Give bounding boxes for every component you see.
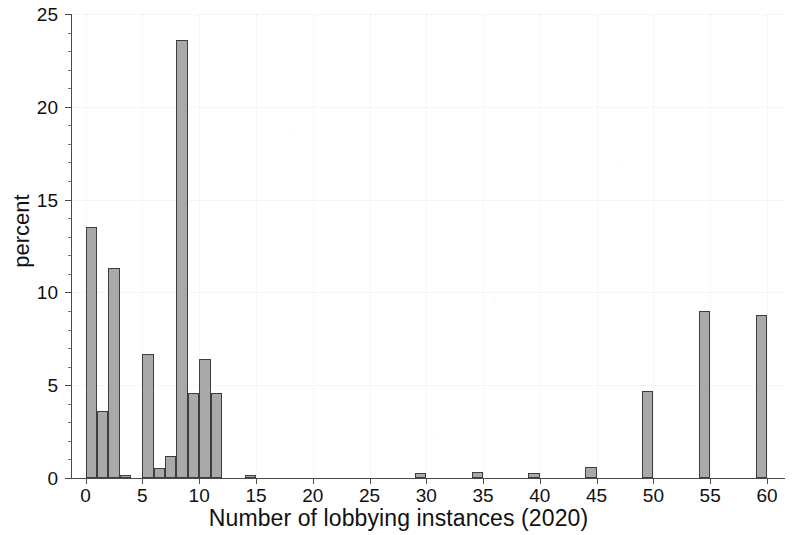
x-axis-tick-label: 25 xyxy=(340,486,400,505)
histogram-bar xyxy=(188,393,199,478)
y-axis-tick xyxy=(65,107,71,108)
y-axis-minor-tick xyxy=(68,274,71,275)
x-axis-tick xyxy=(483,478,484,484)
histogram-bar xyxy=(86,227,97,478)
histogram-bar xyxy=(699,311,710,478)
histogram-figure: 0510152025051015202530354045505560 Numbe… xyxy=(0,0,797,535)
x-axis-tick-label: 5 xyxy=(112,486,172,505)
histogram-bar xyxy=(142,354,153,478)
y-axis-minor-tick xyxy=(68,70,71,71)
y-axis-minor-tick xyxy=(68,88,71,89)
y-axis-minor-tick xyxy=(68,181,71,182)
y-axis-minor-tick xyxy=(68,144,71,145)
y-axis-minor-tick xyxy=(68,441,71,442)
histogram-bar xyxy=(199,359,210,478)
x-axis-tick-label: 40 xyxy=(510,486,570,505)
histogram-bar xyxy=(211,393,222,478)
x-axis-tick-label: 55 xyxy=(680,486,740,505)
x-axis-tick-label: 30 xyxy=(396,486,456,505)
y-axis-minor-tick xyxy=(68,255,71,256)
x-axis-tick-label: 0 xyxy=(56,486,116,505)
y-axis-minor-tick xyxy=(68,311,71,312)
x-axis-tick xyxy=(540,478,541,484)
histogram-bar xyxy=(756,315,767,478)
y-axis-line xyxy=(71,14,72,478)
x-axis-tick xyxy=(710,478,711,484)
x-axis-tick xyxy=(597,478,598,484)
y-axis-minor-tick xyxy=(68,459,71,460)
histogram-bar xyxy=(642,391,653,478)
x-axis-tick-label: 50 xyxy=(623,486,683,505)
y-axis-tick xyxy=(65,14,71,15)
y-axis-minor-tick xyxy=(68,162,71,163)
y-axis-minor-tick xyxy=(68,367,71,368)
x-axis-tick-label: 35 xyxy=(453,486,513,505)
x-axis-tick xyxy=(199,478,200,484)
histogram-bar xyxy=(176,40,187,478)
histogram-bar xyxy=(585,467,596,478)
y-axis-tick-label: 0 xyxy=(0,469,58,488)
x-axis-tick-label: 10 xyxy=(169,486,229,505)
y-axis-tick xyxy=(65,385,71,386)
y-axis-tick-label: 20 xyxy=(0,98,58,117)
y-axis-minor-tick xyxy=(68,348,71,349)
y-axis-minor-tick xyxy=(68,51,71,52)
x-axis-tick-label: 20 xyxy=(283,486,343,505)
x-axis-tick xyxy=(142,478,143,484)
x-axis-tick xyxy=(653,478,654,484)
x-axis-tick-label: 45 xyxy=(567,486,627,505)
x-axis-tick xyxy=(313,478,314,484)
histogram-bar xyxy=(154,468,165,478)
y-axis-minor-tick xyxy=(68,218,71,219)
x-axis-tick xyxy=(370,478,371,484)
histogram-bar xyxy=(108,268,119,478)
bars-layer xyxy=(72,14,784,478)
y-axis-tick xyxy=(65,478,71,479)
x-axis-tick xyxy=(86,478,87,484)
x-axis-tick-label: 15 xyxy=(226,486,286,505)
y-axis-tick-label: 25 xyxy=(0,5,58,24)
y-axis-minor-tick xyxy=(68,422,71,423)
y-axis-tick-label: 5 xyxy=(0,376,58,395)
y-axis-minor-tick xyxy=(68,33,71,34)
y-axis-minor-tick xyxy=(68,404,71,405)
x-axis-line xyxy=(71,478,785,479)
x-axis-tick xyxy=(767,478,768,484)
x-axis-tick-label: 60 xyxy=(737,486,797,505)
y-axis-minor-tick xyxy=(68,237,71,238)
y-axis-tick xyxy=(65,200,71,201)
x-axis-title: Number of lobbying instances (2020) xyxy=(0,505,797,532)
y-axis-minor-tick xyxy=(68,125,71,126)
histogram-bar xyxy=(97,411,108,478)
histogram-bar xyxy=(165,456,176,478)
x-axis-tick xyxy=(426,478,427,484)
y-axis-tick xyxy=(65,292,71,293)
y-axis-title: percent xyxy=(9,121,35,341)
x-axis-tick xyxy=(256,478,257,484)
y-axis-minor-tick xyxy=(68,330,71,331)
